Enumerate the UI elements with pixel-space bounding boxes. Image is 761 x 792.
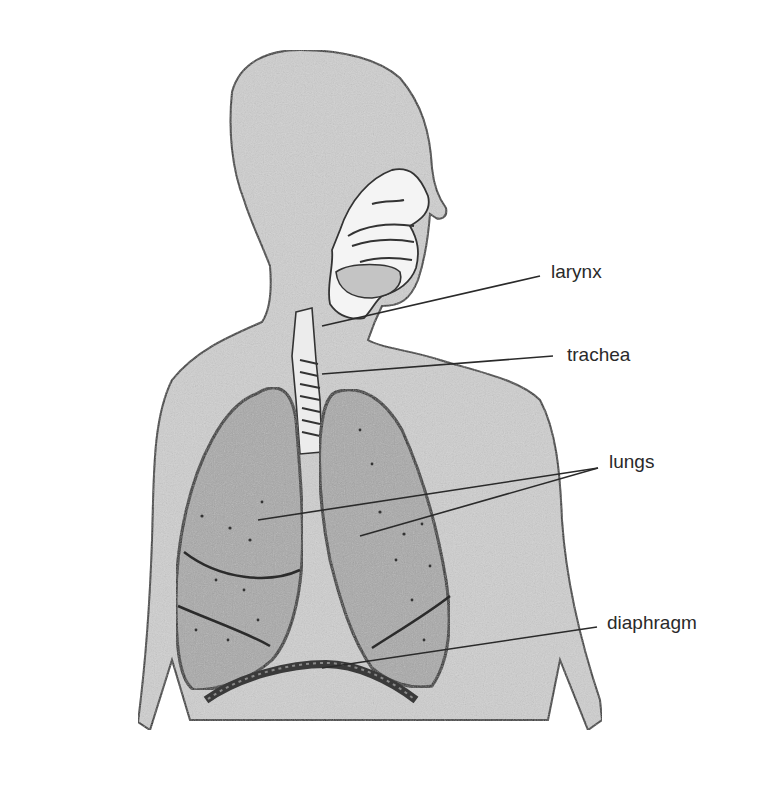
label-trachea: trachea (567, 345, 630, 364)
label-lungs: lungs (609, 452, 654, 471)
label-larynx: larynx (551, 262, 602, 281)
respiratory-diagram (0, 0, 761, 792)
label-diaphragm: diaphragm (607, 613, 697, 632)
